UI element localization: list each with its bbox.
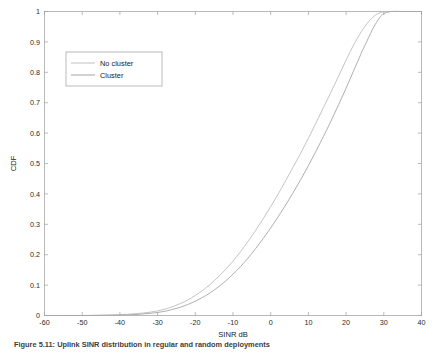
x-tick-label: -50 bbox=[77, 318, 87, 327]
cdf-chart: -60-50-40-30-20-1001020304000.10.20.30.4… bbox=[0, 0, 436, 353]
x-axis-title: SINR dB bbox=[218, 330, 248, 339]
y-tick-label: 0.5 bbox=[30, 159, 40, 168]
x-tick-label: 0 bbox=[269, 318, 273, 327]
x-tick-label: -40 bbox=[115, 318, 125, 327]
y-tick-label: 0.9 bbox=[30, 38, 40, 47]
y-axis-title: CDF bbox=[9, 155, 18, 171]
x-tick-label: -10 bbox=[228, 318, 238, 327]
y-tick-label: 1 bbox=[36, 7, 40, 16]
x-tick-label: -20 bbox=[190, 318, 200, 327]
y-tick-label: 0.3 bbox=[30, 220, 40, 229]
x-tick-label: -30 bbox=[152, 318, 162, 327]
legend-label-1: No cluster bbox=[100, 59, 134, 68]
figure-container: -60-50-40-30-20-1001020304000.10.20.30.4… bbox=[0, 0, 436, 353]
x-tick-label: 30 bbox=[380, 318, 388, 327]
figure-caption: Figure 5.11: Uplink SINR distribution in… bbox=[14, 340, 426, 350]
x-tick-label: 20 bbox=[342, 318, 350, 327]
y-tick-label: 0.8 bbox=[30, 68, 40, 77]
y-tick-label: 0.1 bbox=[30, 281, 40, 290]
x-tick-label: 40 bbox=[418, 318, 426, 327]
legend-label-2: Cluster bbox=[100, 71, 124, 80]
y-tick-label: 0.7 bbox=[30, 98, 40, 107]
y-tick-label: 0.4 bbox=[30, 190, 40, 199]
x-tick-label: -60 bbox=[39, 318, 49, 327]
x-tick-label: 10 bbox=[304, 318, 312, 327]
legend-box bbox=[66, 52, 162, 86]
y-tick-label: 0.2 bbox=[30, 250, 40, 259]
y-tick-label: 0 bbox=[36, 311, 40, 320]
y-tick-label: 0.6 bbox=[30, 129, 40, 138]
